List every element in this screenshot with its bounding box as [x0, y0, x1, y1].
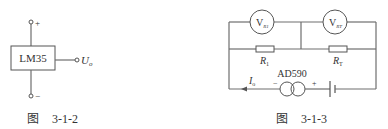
caption-number-left: 3-1-2 [52, 112, 78, 126]
minus-terminal [29, 94, 33, 98]
caption-prefix-right: 图 [276, 112, 288, 126]
resistor-r1-label: R1 [259, 55, 269, 67]
current-arrow-icon [241, 87, 247, 92]
figure-ad590: VR1 VRT R1 RT Io − AD590 + 图 3-1-3 [229, 10, 376, 126]
plus-terminal [29, 20, 33, 24]
caption-number-right: 3-1-3 [301, 112, 327, 126]
ad590-label: AD590 [277, 68, 306, 79]
current-label: Io [248, 75, 255, 87]
resistor-rt [329, 46, 347, 52]
resistor-r1 [256, 46, 274, 52]
output-terminal [75, 58, 79, 62]
figure-lm35: + LM35 Uo − 图 3-1-2 [11, 18, 93, 126]
ad590-coil-1 [280, 82, 294, 96]
output-label: Uo [81, 54, 93, 68]
diagram-canvas: + LM35 Uo − 图 3-1-2 VR1 VRT R [0, 0, 388, 129]
resistor-rt-label: RT [332, 55, 343, 67]
plus-terminal-label: + [35, 18, 40, 28]
sensor-plus-label: + [312, 79, 317, 88]
lm35-chip-label: LM35 [19, 52, 47, 64]
caption-prefix-left: 图 [27, 112, 39, 126]
sensor-minus-label: − [273, 79, 278, 88]
minus-terminal-label: − [35, 91, 40, 101]
